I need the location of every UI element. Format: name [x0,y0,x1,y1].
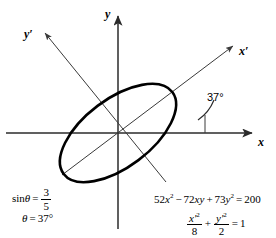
y-prime-exponent: 2 [223,211,227,219]
angle-arc [198,100,214,120]
theta-value-annotation: θ=37° [22,213,53,224]
y-prime-axis-label: y′ [24,28,33,40]
equals-sign-2: = [27,212,37,224]
y-prime-fraction: y′22 [214,211,229,238]
sin-denominator: 5 [41,200,51,213]
y-prime-denominator: 2 [214,225,229,238]
xy-variable: xy [195,193,205,205]
rotated-ellipse-figure: y x x′ y′ 37° sinθ=35 θ=37° 52x2−72xy+73… [0,0,276,238]
rhs-value: 1 [240,217,246,229]
y-prime-numerator: y′2 [214,211,229,225]
coefficient-c: 73 [215,193,226,205]
angle-label: 37° [207,92,224,103]
plus-sign-2: + [203,217,213,229]
sin-theta-annotation: sinθ=35 [12,186,52,212]
general-conic-equation: 52x2−72xy+73y2=200 [154,193,261,205]
sin-numerator: 3 [41,186,51,200]
equals-sign-3: = [234,193,244,205]
y-axis-label: y [105,8,110,20]
minus-sign: − [173,193,183,205]
sin-fraction: 35 [41,186,51,212]
constant-term: 200 [244,193,261,205]
coefficient-b: 72 [184,193,195,205]
plus-sign: + [204,193,214,205]
theta-degrees-value: 37° [38,212,53,224]
x-prime-fraction: x′28 [187,211,202,238]
x-prime-denominator: 8 [187,225,202,238]
standard-form-equation: x′28+y′22=1 [186,211,246,238]
equals-sign-4: = [230,217,240,229]
x-prime-numerator: x′2 [187,211,202,225]
sin-function-label: sin [12,192,25,204]
x-axis-label: x [258,136,264,148]
x-prime-exponent: 2 [196,211,200,219]
equals-sign: = [30,192,40,204]
x-prime-axis-label: x′ [239,45,248,57]
coefficient-a: 52 [154,193,165,205]
y-prime-axis [45,33,166,182]
